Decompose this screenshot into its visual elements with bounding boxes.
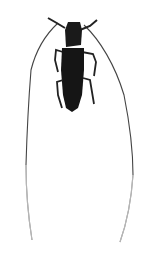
left-antenna bbox=[26, 23, 58, 240]
elytra bbox=[61, 48, 84, 112]
right-front-leg bbox=[80, 20, 97, 30]
left-front-leg bbox=[48, 18, 65, 28]
head-pronotum bbox=[65, 22, 82, 47]
beetle-illustration bbox=[0, 0, 150, 258]
right-middle-leg bbox=[82, 52, 96, 76]
right-antenna bbox=[84, 25, 133, 242]
specimen-photo: longhorn beetle specimen, dorsal view bbox=[0, 0, 150, 258]
left-hind-leg bbox=[57, 80, 63, 108]
right-hind-leg bbox=[83, 78, 94, 104]
